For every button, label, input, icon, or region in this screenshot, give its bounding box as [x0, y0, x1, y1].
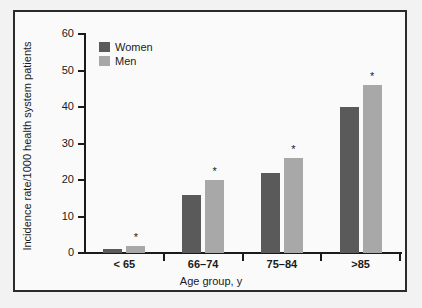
legend-swatch-men-icon [99, 56, 110, 66]
significance-asterisk: * [205, 167, 224, 175]
y-tick-label: 50 [50, 64, 74, 76]
y-tick [78, 70, 85, 72]
y-tick [78, 252, 85, 254]
x-category-label: 75–84 [243, 258, 322, 270]
bar-men-3 [363, 85, 382, 253]
y-tick [78, 143, 85, 145]
bar-women-3 [340, 107, 359, 253]
y-tick-label: 20 [50, 173, 74, 185]
y-axis-title: Incidence rate/1000 health system patien… [21, 36, 33, 256]
legend-label-men: Men [115, 55, 136, 67]
bar-men-1 [205, 180, 224, 253]
y-tick-label: 10 [50, 210, 74, 222]
significance-asterisk: * [126, 233, 145, 241]
y-tick-label: 0 [50, 246, 74, 258]
y-tick [78, 216, 85, 218]
bar-men-2 [284, 158, 303, 253]
x-axis-title: Age group, y [0, 275, 422, 287]
legend-item-men: Men [99, 55, 153, 67]
bar-women-1 [182, 195, 201, 253]
y-tick-label: 40 [50, 100, 74, 112]
significance-asterisk: * [363, 72, 382, 80]
legend-label-women: Women [115, 41, 153, 53]
y-tick-label: 30 [50, 137, 74, 149]
y-tick [78, 106, 85, 108]
y-tick [78, 33, 85, 35]
bar-women-2 [261, 173, 280, 253]
significance-asterisk: * [284, 145, 303, 153]
bar-men-0 [126, 246, 145, 253]
x-category-label: 66–74 [164, 258, 243, 270]
bar-women-0 [103, 249, 122, 253]
legend: Women Men [99, 41, 153, 69]
y-tick [78, 179, 85, 181]
legend-swatch-women-icon [99, 42, 110, 52]
x-category-label: < 65 [85, 258, 164, 270]
y-tick-label: 60 [50, 27, 74, 39]
figure: Incidence rate/1000 health system patien… [0, 0, 422, 308]
legend-item-women: Women [99, 41, 153, 53]
x-category-label: >85 [321, 258, 400, 270]
